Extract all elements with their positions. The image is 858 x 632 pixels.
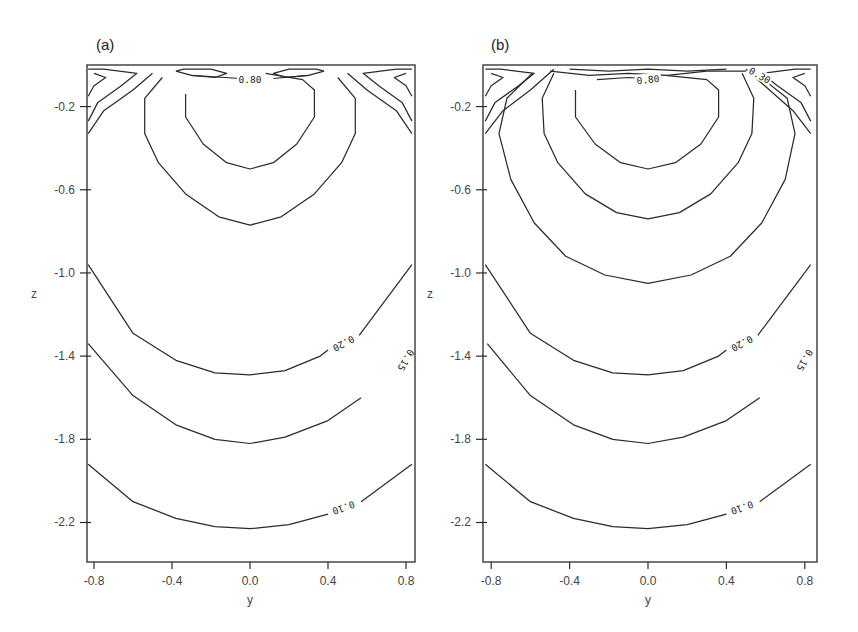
contour-labels: 0.800.300.200.150.10 — [634, 64, 816, 518]
contour-figure: (a) 0.800.200.150.10 -0.8-0.40.00.40.8 -… — [0, 0, 858, 632]
contour-line — [363, 69, 412, 121]
z-tick-label: -1.4 — [54, 349, 75, 363]
z-tick-label: -0.6 — [450, 183, 471, 197]
z-tick-label: -1.8 — [450, 432, 471, 446]
z-axis-label: z — [427, 287, 433, 301]
x-tick-label: -0.8 — [84, 574, 105, 588]
z-tick-label: -0.2 — [450, 100, 471, 114]
contour-line — [145, 78, 356, 226]
x-axis: -0.8-0.40.00.40.8 — [481, 562, 814, 588]
contour-label: 0.20 — [729, 333, 755, 354]
panel-label: (a) — [96, 36, 114, 53]
x-tick-label: -0.4 — [559, 574, 580, 588]
contour-line — [542, 73, 754, 219]
z-axis: -0.2-0.6-1.0-1.4-1.8-2.2 — [54, 100, 91, 530]
plot-frame — [483, 65, 817, 562]
contour-line — [88, 344, 361, 444]
contour-lines — [88, 69, 412, 529]
plot-frame — [87, 65, 415, 562]
contour-line — [88, 69, 137, 121]
contour-line — [570, 69, 727, 71]
z-tick-label: -2.2 — [54, 515, 75, 529]
z-axis-label: z — [31, 287, 37, 301]
contour-line — [88, 464, 328, 528]
panel-label: (b) — [491, 36, 509, 53]
contour-label: 0.10 — [729, 499, 755, 517]
x-axis: -0.8-0.40.00.40.8 — [84, 562, 415, 588]
contour-lines — [485, 69, 810, 529]
z-tick-label: -0.6 — [54, 183, 75, 197]
x-tick-label: -0.8 — [481, 574, 502, 588]
contour-line — [760, 464, 811, 501]
x-tick-label: 0.4 — [718, 574, 735, 588]
contour-line — [359, 265, 412, 336]
z-tick-label: -1.0 — [54, 266, 75, 280]
contour-label: 0.10 — [331, 499, 357, 517]
contour-line — [485, 464, 726, 528]
x-axis-label: y — [645, 593, 651, 607]
contour-line — [576, 75, 719, 169]
contour-line — [88, 73, 106, 96]
contour-line — [361, 464, 412, 501]
contour-line — [485, 73, 503, 96]
z-tick-label: -2.2 — [450, 515, 471, 529]
contour-line — [485, 265, 726, 375]
z-axis: -0.2-0.6-1.0-1.4-1.8-2.2 — [450, 100, 487, 530]
contour-line — [186, 73, 315, 169]
contour-label: 0.80 — [239, 74, 262, 85]
panel-a: (a) 0.800.200.150.10 -0.8-0.40.00.40.8 -… — [31, 36, 418, 607]
x-tick-label: 0.4 — [320, 574, 337, 588]
contour-line — [499, 73, 795, 283]
x-axis-label: y — [247, 593, 253, 607]
x-tick-label: -0.4 — [162, 574, 183, 588]
contour-line — [192, 75, 241, 78]
contour-line — [88, 265, 328, 375]
contour-line — [487, 344, 759, 444]
contour-line — [394, 73, 412, 96]
x-tick-label: 0.8 — [398, 574, 415, 588]
z-tick-label: -1.8 — [54, 432, 75, 446]
x-tick-label: 0.0 — [242, 574, 259, 588]
contour-line — [793, 73, 811, 96]
contour-label: 0.80 — [636, 73, 660, 86]
contour-labels: 0.800.200.150.10 — [237, 74, 418, 518]
contour-label: 0.20 — [331, 333, 357, 354]
x-tick-label: 0.8 — [796, 574, 813, 588]
z-tick-label: -1.4 — [450, 349, 471, 363]
panel-b: (b) 0.800.300.200.150.10 -0.8-0.40.00.40… — [427, 36, 817, 607]
contour-label: 0.15 — [794, 348, 815, 373]
contour-line — [758, 265, 811, 336]
contour-label: 0.15 — [396, 348, 417, 373]
z-tick-label: -1.0 — [450, 266, 471, 280]
x-tick-label: 0.0 — [640, 574, 657, 588]
z-tick-label: -0.2 — [54, 100, 75, 114]
